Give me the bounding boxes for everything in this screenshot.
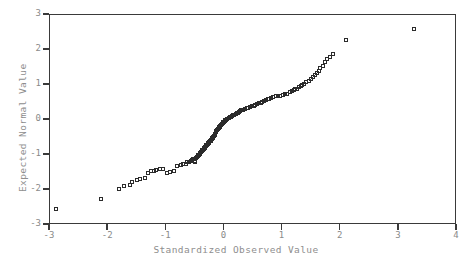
y-tick-label: 3	[22, 8, 41, 18]
data-point	[122, 184, 126, 188]
data-point	[172, 169, 176, 173]
x-tick-label: -1	[152, 230, 178, 240]
y-tick-mark	[43, 153, 49, 154]
x-axis-title: Standardized Observed Value	[0, 244, 472, 255]
y-tick-mark	[43, 48, 49, 49]
x-tick-label: 3	[385, 230, 411, 240]
data-point	[321, 64, 325, 68]
y-tick-mark	[43, 223, 49, 224]
data-point	[344, 38, 348, 42]
y-tick-mark	[43, 118, 49, 119]
data-point	[130, 180, 134, 184]
scatter-points-layer	[50, 15, 457, 225]
y-tick-mark	[43, 188, 49, 189]
qq-plot-figure: -3-2-101234 -3-2-10123 Standardized Obse…	[0, 0, 472, 266]
data-point	[117, 187, 121, 191]
y-tick-mark	[43, 13, 49, 14]
y-tick-label: 2	[22, 43, 41, 53]
y-tick-mark	[43, 83, 49, 84]
x-tick-label: 1	[269, 230, 295, 240]
data-point	[54, 207, 58, 211]
plot-area	[49, 14, 456, 224]
x-tick-label: -3	[36, 230, 62, 240]
y-tick-label: -3	[22, 218, 41, 228]
data-point	[99, 197, 103, 201]
y-axis-title: Expected Normal Value	[17, 63, 28, 192]
data-point	[143, 176, 147, 180]
x-tick-label: 4	[443, 230, 469, 240]
data-point	[138, 177, 142, 181]
x-tick-label: 2	[327, 230, 353, 240]
x-tick-label: -2	[94, 230, 120, 240]
data-point	[412, 27, 416, 31]
data-point	[331, 52, 335, 56]
x-tick-label: 0	[210, 230, 236, 240]
